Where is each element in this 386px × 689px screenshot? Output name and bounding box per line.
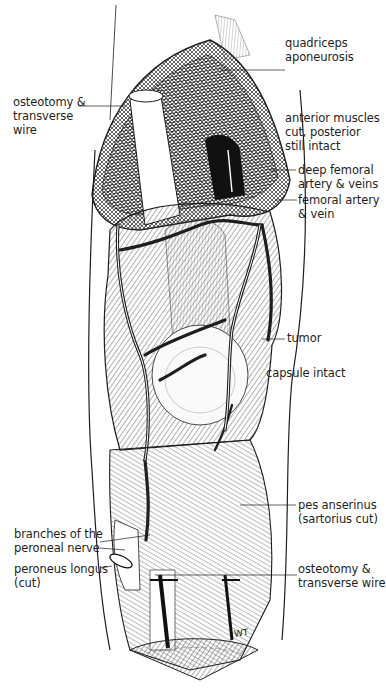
label-capsule-intact: capsule intact <box>266 366 345 380</box>
label-peroneus-longus: peroneus longus (cut) <box>14 562 108 590</box>
label-line: peroneal nerve <box>14 541 103 555</box>
label-line: wire <box>13 123 86 137</box>
label-femoral-artery: femoral artery & vein <box>298 193 379 221</box>
label-line: pes anserinus <box>298 498 378 512</box>
label-osteotomy-transverse-wire-bottom: osteotomy & transverse wire <box>298 562 386 590</box>
label-line: femoral artery <box>298 193 379 207</box>
label-pes-anserinus: pes anserinus (sartorius cut) <box>298 498 378 526</box>
artist-signature: WT <box>233 627 249 639</box>
label-line: transverse <box>13 109 86 123</box>
label-line: aponeurosis <box>285 50 354 64</box>
label-line: artery & veins <box>298 177 378 191</box>
label-deep-femoral: deep femoral artery & veins <box>298 163 378 191</box>
label-line: osteotomy & <box>298 562 386 576</box>
label-line: deep femoral <box>298 163 378 177</box>
label-line: (sartorius cut) <box>298 512 378 526</box>
label-line: transverse wire <box>298 576 386 590</box>
label-tumor: tumor <box>287 331 321 345</box>
label-line: still intact <box>285 139 380 153</box>
label-line: (cut) <box>14 576 108 590</box>
label-line: osteotomy & <box>13 95 86 109</box>
label-anterior-muscles: anterior muscles cut, posterior still in… <box>285 111 380 153</box>
label-line: quadriceps <box>285 36 354 50</box>
upper-wound <box>92 40 290 230</box>
label-line: anterior muscles <box>285 111 380 125</box>
label-line: & vein <box>298 207 379 221</box>
label-line: capsule intact <box>266 366 345 380</box>
label-osteotomy-transverse-wire-top: osteotomy & transverse wire <box>13 95 86 137</box>
label-quadriceps-aponeurosis: quadriceps aponeurosis <box>285 36 354 64</box>
label-line: branches of the <box>14 527 103 541</box>
label-line: peroneus longus <box>14 562 108 576</box>
lower-leg <box>108 440 272 680</box>
label-line: tumor <box>287 331 321 345</box>
label-line: cut, posterior <box>285 125 380 139</box>
label-branches-peroneal-nerve: branches of the peroneal nerve <box>14 527 103 555</box>
